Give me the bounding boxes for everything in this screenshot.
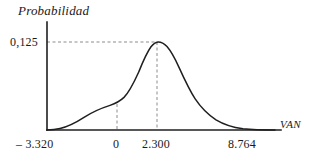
x-tick-label-minus-3320: – 3.320: [16, 138, 53, 150]
y-axis-title: Probabilidad: [18, 4, 89, 17]
x-axis-title: VAN: [280, 119, 301, 130]
distribution-curve: [47, 42, 275, 130]
x-tick-label-zero: 0: [113, 138, 119, 150]
x-tick-label-8764: 8.764: [228, 138, 256, 150]
y-tick-label-0125: 0,125: [10, 36, 38, 48]
probability-distribution-figure: Probabilidad 0,125 – 3.320 0 2.300 8.764…: [0, 0, 310, 163]
x-tick-label-2300: 2.300: [142, 138, 170, 150]
